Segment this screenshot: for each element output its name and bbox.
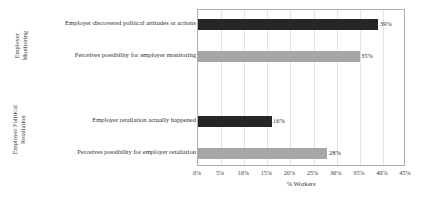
bar-employer-retaliation-actually-happened — [198, 116, 272, 127]
group-label-line-1: Employer — [13, 1, 21, 91]
gridline-25 — [314, 10, 315, 165]
bar-perceives-possibility-employer-retaliation — [198, 148, 327, 159]
xtick-5: 5% — [207, 169, 233, 177]
bar-value-35: 35% — [361, 52, 373, 60]
bar-value-39: 39% — [380, 20, 392, 28]
xtick-45: 45% — [392, 169, 418, 177]
group-label-line-2: Retaliation — [19, 85, 27, 175]
category-label-employer-discovered-political-attitudes: Employer discovered political attitudes … — [16, 19, 196, 27]
bar-perceives-possibility-employer-monitoring — [198, 51, 360, 62]
gridline-30 — [337, 10, 338, 165]
xtick-35: 35% — [346, 169, 372, 177]
bar-chart: Employer Monitoring Employer Political R… — [0, 0, 429, 199]
x-axis-title: % Workers — [197, 180, 405, 188]
gridline-40 — [383, 10, 384, 165]
xtick-20: 20% — [276, 169, 302, 177]
category-label-perceives-possibility-employer-retaliation: Perceives possibility for employer retal… — [16, 148, 196, 156]
group-label-line-1: Employer Political — [11, 85, 19, 175]
gridline-20 — [290, 10, 291, 165]
gridline-5 — [221, 10, 222, 165]
group-label-employer-political-retaliation: Employer Political Retaliation — [11, 85, 26, 175]
group-label-line-2: Monitoring — [21, 1, 29, 91]
gridline-35 — [360, 10, 361, 165]
xtick-40: 40% — [369, 169, 395, 177]
bar-employer-discovered-political-attitudes — [198, 19, 378, 30]
xtick-0: 0% — [184, 169, 210, 177]
category-label-perceives-possibility-employer-monitoring: Perceives possibility for employer monit… — [16, 51, 196, 59]
bar-value-28: 28% — [329, 149, 341, 157]
category-label-employer-retaliation-actually-happened: Employer retaliation actually happened — [16, 116, 196, 124]
xtick-10: 10% — [230, 169, 256, 177]
xtick-15: 15% — [253, 169, 279, 177]
group-label-employer-monitoring: Employer Monitoring — [13, 1, 28, 91]
bar-value-16: 16% — [273, 117, 285, 125]
gridline-15 — [267, 10, 268, 165]
gridline-10 — [244, 10, 245, 165]
xtick-25: 25% — [300, 169, 326, 177]
plot-area — [197, 9, 405, 166]
xtick-30: 30% — [323, 169, 349, 177]
